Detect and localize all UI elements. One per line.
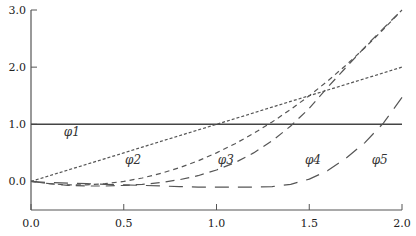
curve-4 [31,10,402,186]
curve-label-2: φ2 [125,153,141,167]
axes [31,10,402,210]
y-tick-label: 2.0 [9,61,27,74]
curves [31,10,402,187]
curve-label-5: φ5 [372,153,388,167]
x-tick-label: 1.5 [301,217,319,230]
curve-5 [31,97,402,187]
x-tick-label: 1.0 [208,217,226,230]
x-tick-label: 2.0 [393,217,411,230]
chart: 0.01.02.03.0 0.00.51.01.52.0 φ1φ2φ3φ4φ5 [0,0,416,236]
x-tick-label: 0.0 [22,217,40,230]
curve-label-1: φ1 [64,125,80,139]
x-ticks: 0.00.51.01.52.0 [22,204,411,230]
curve-3 [31,10,402,185]
curve-label-4: φ4 [305,153,321,167]
y-ticks: 0.01.02.03.0 [9,4,38,188]
curve-label-3: φ3 [218,153,234,167]
y-tick-label: 0.0 [9,175,27,188]
y-tick-label: 1.0 [9,118,27,131]
y-tick-label: 3.0 [9,4,27,17]
x-tick-label: 0.5 [115,217,133,230]
curve-labels: φ1φ2φ3φ4φ5 [64,125,388,168]
